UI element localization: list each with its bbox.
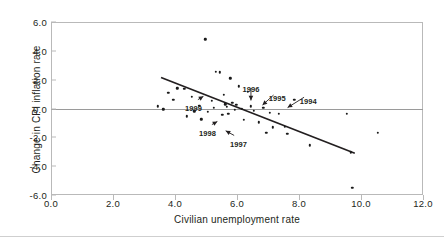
x-tick-mark	[113, 195, 114, 200]
y-tick-mark	[51, 108, 56, 109]
y-tick-mark	[51, 22, 56, 23]
x-tick-mark	[237, 195, 238, 200]
year-label-1997: 1997	[230, 139, 247, 148]
y-tick-mark	[51, 166, 56, 167]
x-tick-mark	[361, 195, 362, 200]
x-tick-mark	[423, 195, 424, 200]
footer-rule	[0, 236, 444, 237]
x-tick-mark	[175, 195, 176, 200]
x-tick-mark	[51, 195, 52, 200]
scatter-chart: 6.04.02.00.0-2.0-4.0-6.0 Change in CPI i…	[0, 0, 444, 241]
year-label-1998: 1998	[199, 129, 216, 138]
y-tick-mark	[51, 137, 56, 138]
year-label-1999: 1999	[185, 104, 202, 113]
y-tick-mark	[51, 50, 56, 51]
zero-reference-line	[51, 109, 423, 110]
x-axis-title: Civilian unemployment rate	[51, 214, 423, 225]
year-label-1996: 1996	[242, 85, 259, 94]
y-axis-title: Change in CPI inflation rate	[31, 25, 42, 195]
year-label-1995: 1995	[269, 93, 286, 102]
y-tick-mark	[51, 79, 56, 80]
x-tick-mark	[299, 195, 300, 200]
y-axis-title-host: Change in CPI inflation rate	[14, 0, 30, 241]
year-label-1994: 1994	[300, 96, 317, 105]
